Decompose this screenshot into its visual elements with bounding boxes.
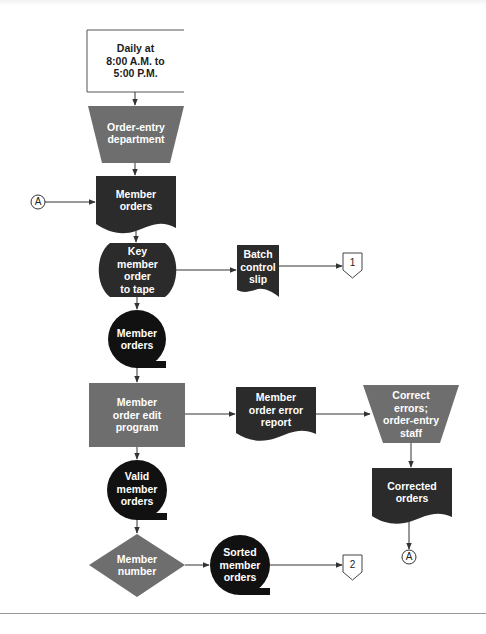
edit-program-label: Member order edit program	[89, 383, 185, 447]
flow-lines	[45, 92, 411, 565]
page-divider-rule	[0, 613, 486, 614]
member-orders-tape-label: Member orders	[108, 321, 166, 357]
offpage-connector-1-label: 1	[343, 255, 362, 271]
order-entry-department-label: Order-entry department	[95, 112, 177, 154]
sorted-orders-tape-label: Sorted member orders	[210, 542, 270, 588]
schedule-label: Daily at 8:00 A.M. to 5:00 P.M.	[87, 30, 184, 92]
valid-orders-tape-label: Valid member orders	[107, 466, 167, 512]
member-orders-document-label: Member orders	[96, 180, 176, 220]
error-report-label: Member order error report	[236, 388, 316, 432]
connector-a-bottom-label: A	[402, 550, 416, 564]
member-number-label: Member number	[105, 550, 169, 580]
key-to-tape-label: Key member order to tape	[100, 243, 175, 297]
corrected-orders-label: Corrected orders	[372, 472, 452, 512]
flowchart-canvas	[0, 0, 486, 634]
batch-control-slip-label: Batch control slip	[237, 247, 279, 287]
connector-a-left-label: A	[31, 195, 45, 209]
correct-errors-label: Correct errors; order-entry staff	[371, 386, 451, 442]
offpage-connector-2-label: 2	[343, 557, 362, 573]
